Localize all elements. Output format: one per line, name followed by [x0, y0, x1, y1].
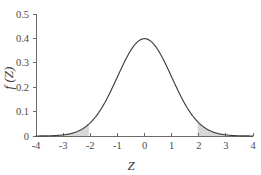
y-tick-label: 0.3	[16, 57, 29, 68]
y-tick-label: 0.1	[16, 106, 29, 117]
x-tick-label: -4	[32, 140, 41, 151]
y-axis-tick-labels: 00.10.20.30.40.5	[16, 9, 30, 142]
shaded-tail-regions	[62, 122, 226, 136]
y-axis-tick-marks	[33, 14, 37, 136]
x-tick-label: -1	[113, 140, 122, 151]
x-tick-label: 1	[169, 140, 174, 151]
y-tick-label: 0.2	[16, 82, 29, 93]
y-tick-label: 0.5	[16, 9, 29, 20]
axes-lines	[36, 14, 253, 136]
x-tick-label: 4	[250, 140, 256, 151]
normal-density-curve	[36, 39, 253, 136]
x-tick-label: 2	[196, 140, 201, 151]
x-tick-label: 0	[142, 140, 147, 151]
normal-distribution-figure: 00.10.20.30.40.5 -4-3-2-101234 Z f (Z)	[0, 0, 261, 175]
chart-canvas: 00.10.20.30.40.5 -4-3-2-101234 Z f (Z)	[0, 0, 261, 175]
x-tick-label: -2	[86, 140, 95, 151]
y-axis-title: f (Z)	[1, 67, 16, 90]
y-tick-label: 0	[24, 131, 29, 142]
x-axis-tick-labels: -4-3-2-101234	[32, 140, 257, 151]
x-tick-label: -3	[59, 140, 68, 151]
x-axis-title: Z	[127, 158, 135, 173]
x-tick-label: 3	[223, 140, 228, 151]
y-tick-label: 0.4	[16, 33, 30, 44]
